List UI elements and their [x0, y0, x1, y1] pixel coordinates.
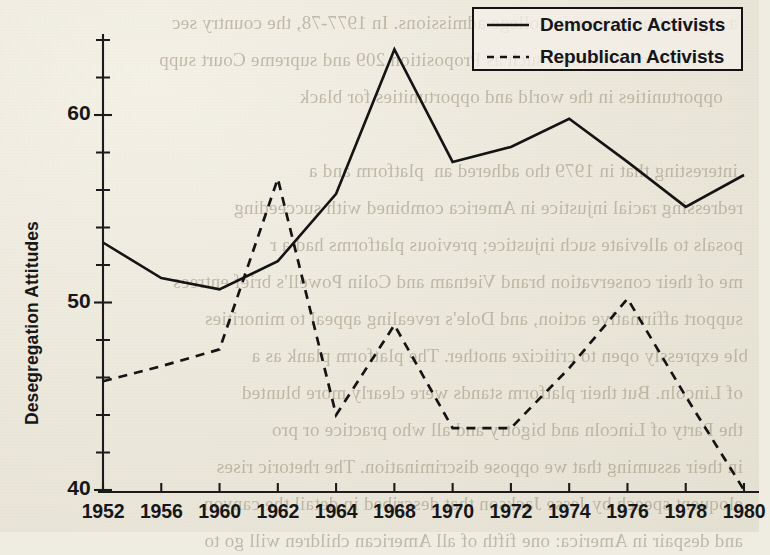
x-axis-tick-label: 1980 [716, 500, 770, 523]
y-axis-tick-label: 40 [45, 476, 91, 500]
x-axis-tick-label: 1972 [483, 500, 539, 523]
y-axis-tick-label: 50 [45, 289, 91, 313]
x-axis-tick-label: 1952 [75, 500, 131, 523]
legend-item-label: Democratic Activists [540, 14, 725, 36]
x-axis-tick-label: 1978 [658, 500, 714, 523]
solid-line-icon [485, 17, 531, 33]
x-axis-tick-label: 1970 [425, 500, 481, 523]
x-axis-tick-label: 1956 [133, 500, 189, 523]
chart-legend: Democratic ActivistsRepublican Activists [472, 7, 743, 71]
legend-item-democratic-activists: Democratic Activists [474, 9, 741, 41]
x-axis-tick-label: 1968 [366, 500, 422, 523]
legend-item-republican-activists: Republican Activists [474, 41, 741, 73]
x-axis-tick-label: 1974 [541, 500, 597, 523]
x-axis-tick-label: 1960 [192, 500, 248, 523]
x-axis-tick-label: 1962 [250, 500, 306, 523]
x-axis-tick-label: 1976 [599, 500, 655, 523]
dashed-line-icon [485, 49, 531, 65]
x-axis-tick-label: 1964 [308, 500, 364, 523]
legend-item-label: Republican Activists [540, 46, 724, 68]
y-axis-label: Desegregation Attitudes [22, 221, 43, 425]
series-line-democratic-activists [103, 49, 744, 289]
y-axis-tick-label: 60 [45, 101, 91, 125]
series-line-republican-activists [103, 179, 744, 490]
